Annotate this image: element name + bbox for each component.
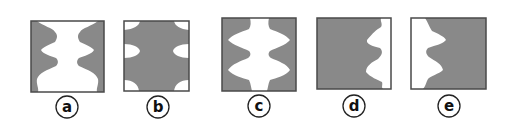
panel-a bbox=[31, 21, 104, 92]
label-b: b bbox=[147, 96, 169, 118]
label-d: d bbox=[343, 95, 365, 117]
panel-e bbox=[411, 18, 486, 89]
panel-b bbox=[124, 21, 189, 91]
label-e: e bbox=[438, 95, 460, 117]
label-d-text: d bbox=[349, 97, 360, 115]
label-a-text: a bbox=[62, 98, 72, 116]
label-a: a bbox=[56, 96, 78, 118]
panel-c bbox=[222, 18, 296, 91]
label-c: c bbox=[248, 95, 270, 117]
label-b-text: b bbox=[153, 98, 164, 116]
figure-panels: a b c d e bbox=[0, 0, 516, 134]
panel-d bbox=[317, 18, 391, 89]
label-e-text: e bbox=[444, 97, 454, 115]
label-c-text: c bbox=[255, 97, 264, 115]
